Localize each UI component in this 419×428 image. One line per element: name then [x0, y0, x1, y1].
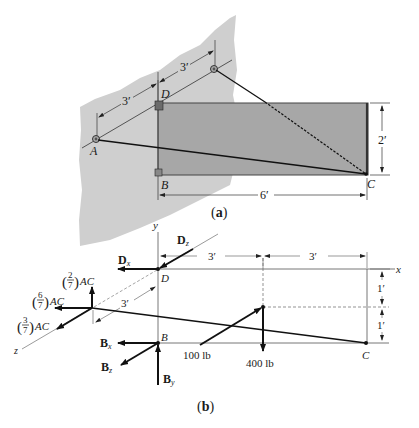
label-AC-y: ( 2 7 ) AC [62, 270, 95, 291]
point-C-label-b: C [362, 349, 370, 361]
caption-a: (a) [211, 205, 228, 221]
dim-3ft-z: 3′ [121, 297, 129, 309]
force-Bz [121, 343, 158, 365]
force-100lb [200, 308, 261, 345]
svg-text:3: 3 [23, 315, 28, 325]
svg-text:7: 7 [68, 280, 73, 290]
dim-1ft-upper: 1′ [377, 282, 385, 294]
load-100lb-label: 100 lb [183, 349, 211, 361]
svg-text:): ) [74, 274, 79, 291]
dim-3ft-b2: 3′ [309, 250, 317, 262]
svg-text:(: ( [17, 319, 22, 336]
part-a: 3′ 3′ A D B C 2′ 6′ [79, 15, 390, 246]
svg-text:2: 2 [68, 270, 73, 280]
svg-text:7: 7 [23, 325, 28, 335]
point-D-label-b: D [160, 272, 169, 284]
point-C-label: C [367, 177, 376, 191]
svg-text:(: ( [32, 294, 37, 311]
dim-2ft: 2′ [378, 133, 387, 147]
force-By-label: By [163, 372, 175, 387]
hinge-B [155, 169, 162, 176]
part-b: y x z 3′ 3′ 1′ 1′ 3′ [13, 219, 401, 415]
y-axis-label: y [152, 219, 158, 231]
point-D-label: D [160, 87, 170, 101]
svg-text:6: 6 [38, 290, 43, 300]
dim-6ft: 6′ [260, 188, 269, 202]
svg-text:(: ( [62, 274, 67, 291]
point-B-label: B [161, 178, 169, 192]
load-400lb-label: 400 lb [246, 357, 274, 369]
force-Dz-label: Dz [177, 233, 190, 248]
dim-3ft-a1: 3′ [122, 94, 131, 108]
x-axis-label: x [395, 263, 401, 275]
svg-text:): ) [29, 319, 34, 336]
dim-3ft-a2: 3′ [180, 60, 189, 74]
caption-b: (b) [197, 399, 214, 415]
force-Dz [160, 249, 193, 268]
cable-AC-b [92, 308, 366, 343]
z-axis-label: z [13, 345, 18, 356]
force-Dx-label: Dx [118, 253, 131, 268]
force-Bz-label: Bz [101, 360, 113, 375]
plate [158, 103, 368, 175]
svg-text:7: 7 [38, 300, 43, 310]
dim-1ft-lower: 1′ [377, 319, 385, 331]
label-AC-z: ( 3 7 ) AC [17, 315, 50, 336]
hinge-D [155, 101, 163, 110]
statics-figure: 3′ 3′ A D B C 2′ 6′ [0, 0, 419, 428]
dim-3ft-b1: 3′ [208, 250, 216, 262]
svg-text:AC: AC [79, 275, 95, 287]
svg-text:AC: AC [49, 295, 65, 307]
point-B-label-b: B [161, 331, 168, 343]
svg-text:): ) [44, 294, 49, 311]
force-Bx-label: Bx [100, 336, 112, 351]
force-AC-z [57, 308, 92, 329]
point-A-label: A [89, 144, 98, 158]
svg-text:AC: AC [34, 320, 50, 332]
